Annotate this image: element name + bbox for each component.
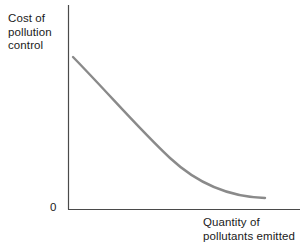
x-axis-label: Quantity of pollutants emitted [203,216,295,242]
y-axis-label: Cost of pollution control [8,12,52,53]
origin-label: 0 [50,201,56,213]
pollution-cost-chart: Cost of pollution control Quantity of po… [0,0,300,242]
cost-curve [73,57,265,198]
